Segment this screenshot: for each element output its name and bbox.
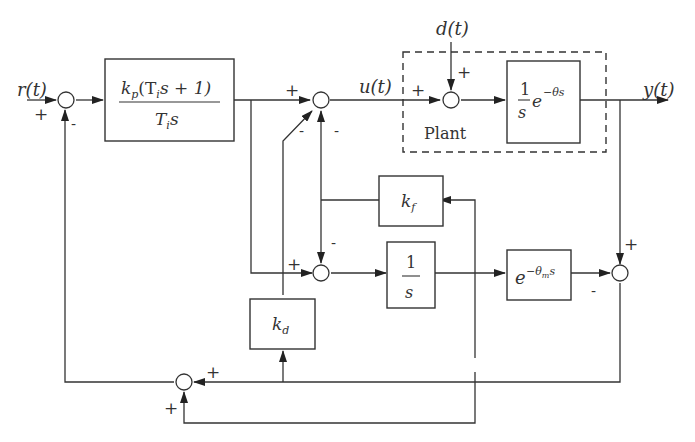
- sum-junction-model: [313, 265, 329, 281]
- sign-plus-ref: +: [34, 104, 48, 124]
- model-output-feedback-wire: [184, 372, 475, 423]
- sign-plus-feedback-bottom: +: [164, 398, 178, 418]
- svg-text:s: s: [518, 103, 526, 122]
- sign-plus-feedback-right: +: [206, 362, 220, 382]
- sum-junction-reference: [58, 92, 74, 108]
- svg-text:−θs: −θs: [543, 86, 565, 99]
- pi-controller-block: kp(Tis + 1) Tis: [105, 59, 234, 141]
- sign-minus-delay: -: [591, 283, 596, 299]
- sign-minus-kf-bottom: -: [331, 235, 336, 251]
- sign-minus-kf-top: -: [334, 123, 339, 139]
- sum-junction-prediction-error: [612, 265, 628, 281]
- block-diagram: Plant kp(Tis + 1) Tis 1 s e −θs kf 1 s e…: [0, 0, 695, 442]
- sign-minus-ref: -: [71, 116, 76, 132]
- plant-transfer-block: 1 s e −θs: [507, 61, 580, 143]
- kf-gain-block: kf: [379, 176, 443, 226]
- sign-minus-kd: -: [299, 123, 304, 139]
- kd-gain-block: kd: [250, 299, 315, 349]
- kf-input-wire: [440, 200, 475, 273]
- svg-text:e: e: [532, 91, 542, 111]
- sign-plus-model: +: [287, 254, 301, 274]
- control-signal-label: u(t): [359, 76, 392, 97]
- sign-plus-plant: +: [411, 80, 425, 100]
- plant-label: Plant: [424, 124, 467, 143]
- svg-text:s: s: [405, 283, 413, 302]
- output-signal-label: y(t): [642, 79, 674, 100]
- sign-plus-disturbance: +: [457, 62, 471, 82]
- disturbance-signal-label: d(t): [436, 18, 469, 39]
- svg-text:1: 1: [520, 80, 530, 99]
- svg-text:−θms: −θms: [526, 265, 555, 280]
- reference-signal-label: r(t): [17, 79, 47, 100]
- svg-text:e: e: [515, 267, 526, 288]
- integrator-block: 1 s: [387, 242, 435, 308]
- main-feedback-wire: [65, 110, 174, 382]
- sign-plus-output: +: [624, 234, 638, 254]
- sum-junction-control: [313, 92, 329, 108]
- delay-model-block: e −θms: [507, 250, 571, 300]
- sum-junction-feedback: [176, 374, 192, 390]
- sum-junction-disturbance: [443, 92, 459, 108]
- sign-plus-control: +: [285, 80, 299, 100]
- svg-text:1: 1: [406, 253, 416, 272]
